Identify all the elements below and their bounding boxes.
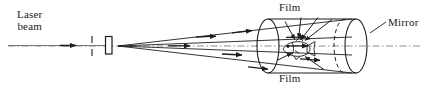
laser-beam-label-line1: Laser	[17, 8, 42, 20]
diverging-lens	[106, 37, 113, 55]
object-illumination-rays	[278, 18, 332, 70]
mirror-leader-line	[370, 22, 386, 33]
mirror-label: Mirror	[388, 16, 419, 28]
fish-body	[283, 42, 310, 57]
laser-beam-label-line2: beam	[17, 20, 42, 32]
fish-object	[283, 38, 315, 60]
laser-beam-label: Laser beam	[17, 8, 42, 32]
film-top-label: Film	[279, 1, 301, 13]
diagram-canvas	[0, 0, 426, 88]
beam-direction-arrows	[168, 31, 320, 70]
film-bottom-label: Film	[279, 72, 301, 84]
fish-eye	[287, 45, 290, 48]
holography-diagram: Laser beam Film Film Mirror	[0, 0, 426, 88]
